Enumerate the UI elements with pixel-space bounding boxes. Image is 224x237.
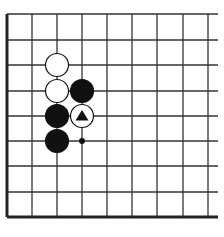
stones-layer <box>46 54 94 153</box>
black-stone <box>71 80 94 103</box>
black-stone <box>46 130 69 153</box>
point-dot-marker <box>79 138 85 144</box>
white-stone <box>46 54 69 77</box>
board-grid <box>7 14 218 217</box>
white-stone <box>46 80 69 103</box>
white-stone <box>71 105 94 128</box>
go-board-diagram <box>0 0 224 237</box>
black-stone <box>46 105 69 128</box>
